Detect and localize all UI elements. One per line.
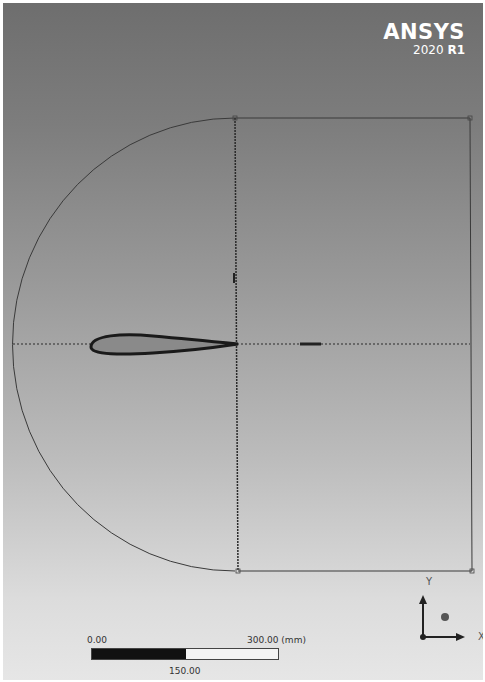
geometry-canvas[interactable] bbox=[3, 3, 483, 680]
coordinate-triad[interactable] bbox=[419, 595, 465, 641]
domain-outlet-edge[interactable] bbox=[470, 118, 472, 571]
graphics-viewport[interactable]: ANSYS 2020 R1 bbox=[3, 3, 483, 680]
airfoil-body[interactable] bbox=[91, 335, 238, 354]
